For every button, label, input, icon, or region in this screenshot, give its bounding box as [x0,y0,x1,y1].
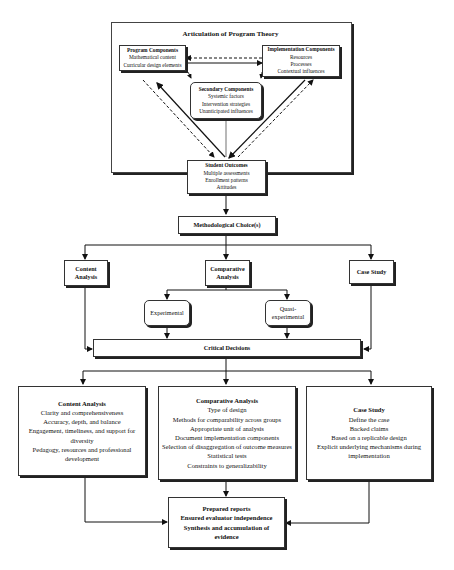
final-outcomes-box: Prepared reports Ensured evaluator indep… [168,497,285,548]
content-analysis-decision-item: Engagement, timeliness, and support for … [23,426,141,444]
critical-decisions-label: Critical Decisions [94,344,360,352]
case-study-decisions-title: Case Study [311,405,427,414]
case-study-method-box: Case Study [349,260,394,284]
content-analysis-decisions-box: Content Analysis Clarity and comprehensi… [18,386,146,476]
comparative-analysis-decision-item: Methods for comparability across groups [162,415,292,424]
student-outcomes-item: Multiple assessments [188,170,265,177]
student-outcomes-item: Attitudes [188,184,265,191]
content-analysis-method-box: Content Analysis [64,260,108,286]
program-components-title: Program Components [120,47,185,54]
secondary-components-item: Intervention strategies [191,101,261,108]
comparative-analysis-method-label: Analysis [206,273,249,281]
implementation-components-item: Resources [263,54,339,61]
comparative-analysis-decision-item: Type of design [162,405,292,414]
case-study-decision-item: Based on a replicable design [311,433,427,442]
student-outcomes-box: Student Outcomes Multiple assessments En… [187,160,266,194]
comparative-analysis-decisions-box: Comparative Analysis Type of design Meth… [158,386,296,480]
secondary-components-item: Unanticipated influences [191,108,261,115]
experimental-box: Experimental [144,300,190,326]
student-outcomes-item: Enrollment patterns [188,177,265,184]
quasi-experimental-label: Quasi- [266,305,310,313]
implementation-components-item: Processes [263,61,339,68]
final-outcome-item: Ensured evaluator independence [173,513,280,522]
implementation-components-item: Contextual influences [263,68,339,75]
program-components-item: Curricular design elements [120,62,185,69]
program-components-box: Program Components Mathematical content … [119,45,186,71]
program-components-item: Mathematical content [120,54,185,61]
case-study-decision-item: Backed claims [311,424,427,433]
implementation-components-box: Implementation Components Resources Proc… [262,45,340,77]
final-outcome-item: Prepared reports [173,504,280,513]
quasi-experimental-label: experimental [266,313,310,321]
comparative-analysis-decision-item: Constraints to generalizability [162,461,292,470]
comparative-analysis-method-label: Comparative [206,265,249,273]
comparative-analysis-decision-item: Selection of disaggregation of outcome m… [162,442,292,451]
case-study-method-label: Case Study [350,268,393,276]
quasi-experimental-box: Quasi- experimental [265,300,311,326]
critical-decisions-box: Critical Decisions [93,339,361,357]
content-analysis-decisions-title: Content Analysis [23,399,141,408]
methodological-choice-box: Methodological Choice(s) [178,216,276,234]
content-analysis-decision-item: Clarity and comprehensiveness [23,408,141,417]
case-study-decision-item: Explicit underlying mechanisms during im… [311,442,427,460]
content-analysis-decision-item: Pedagogy, resources and professional dev… [23,445,141,463]
content-analysis-method-label: Content [65,265,107,273]
case-study-decision-item: Define the case [311,415,427,424]
methodological-choice-label: Methodological Choice(s) [179,221,275,229]
implementation-components-title: Implementation Components [263,46,339,53]
comparative-analysis-decision-item: Document implementation components [162,433,292,442]
content-analysis-method-label: Analysis [65,273,107,281]
comparative-analysis-decision-item: Appropriate unit of analysis [162,424,292,433]
comparative-analysis-decision-item: Statistical tests [162,451,292,460]
comparative-analysis-method-box: Comparative Analysis [205,260,250,286]
final-outcome-item: Synthesis and accumulation of evidence [173,523,280,541]
secondary-components-box: Secondary Components Systemic factors In… [190,82,262,119]
experimental-label: Experimental [145,309,189,317]
comparative-analysis-decisions-title: Comparative Analysis [162,396,292,405]
content-analysis-decision-item: Accuracy, depth, and balance [23,417,141,426]
case-study-decisions-box: Case Study Define the case Backed claims… [306,386,432,480]
student-outcomes-title: Student Outcomes [188,162,265,169]
secondary-components-title: Secondary Components [191,86,261,93]
secondary-components-item: Systemic factors [191,93,261,100]
